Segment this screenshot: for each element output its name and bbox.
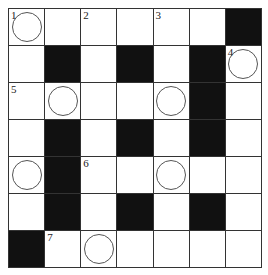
grid-cell[interactable] bbox=[9, 46, 44, 82]
circle-icon bbox=[12, 160, 42, 190]
black-cell bbox=[190, 83, 225, 119]
grid-cell[interactable] bbox=[117, 9, 152, 45]
grid-cell[interactable] bbox=[9, 120, 44, 156]
grid-cell[interactable]: 5 bbox=[9, 83, 44, 119]
grid-cell[interactable] bbox=[81, 194, 116, 230]
black-cell bbox=[9, 231, 44, 267]
grid-cell[interactable] bbox=[226, 194, 261, 230]
black-cell bbox=[45, 46, 80, 82]
black-cell bbox=[117, 120, 152, 156]
grid-cell[interactable] bbox=[9, 157, 44, 193]
grid-cell[interactable] bbox=[154, 46, 189, 82]
grid-cell[interactable] bbox=[45, 9, 80, 45]
black-cell bbox=[190, 120, 225, 156]
grid-cell[interactable] bbox=[154, 120, 189, 156]
black-cell bbox=[190, 194, 225, 230]
black-cell bbox=[117, 46, 152, 82]
circle-icon bbox=[84, 234, 114, 264]
grid-cell[interactable] bbox=[117, 83, 152, 119]
black-cell bbox=[117, 194, 152, 230]
grid-cell[interactable] bbox=[117, 231, 152, 267]
grid-cell[interactable]: 4 bbox=[226, 46, 261, 82]
clue-number: 6 bbox=[83, 157, 89, 169]
black-cell bbox=[45, 120, 80, 156]
grid-cell[interactable] bbox=[45, 83, 80, 119]
circle-icon bbox=[156, 160, 186, 190]
circle-icon bbox=[156, 86, 186, 116]
grid-cell[interactable] bbox=[154, 194, 189, 230]
grid-cell[interactable] bbox=[226, 120, 261, 156]
crossword-grid: 1234567 bbox=[8, 8, 262, 268]
grid-cell[interactable] bbox=[81, 46, 116, 82]
grid-cell[interactable] bbox=[226, 231, 261, 267]
black-cell bbox=[190, 46, 225, 82]
black-cell bbox=[45, 194, 80, 230]
grid-cell[interactable] bbox=[226, 83, 261, 119]
black-cell bbox=[226, 9, 261, 45]
grid-cell[interactable]: 6 bbox=[81, 157, 116, 193]
grid-cell[interactable] bbox=[190, 157, 225, 193]
clue-number: 2 bbox=[83, 9, 89, 21]
grid-cell[interactable]: 3 bbox=[154, 9, 189, 45]
grid-cell[interactable]: 7 bbox=[45, 231, 80, 267]
grid-cell[interactable] bbox=[190, 9, 225, 45]
clue-number: 3 bbox=[156, 9, 162, 21]
grid-cell[interactable] bbox=[190, 231, 225, 267]
clue-number: 5 bbox=[11, 83, 17, 95]
grid-cell[interactable] bbox=[154, 157, 189, 193]
grid-cell[interactable] bbox=[117, 157, 152, 193]
grid-cell[interactable]: 1 bbox=[9, 9, 44, 45]
grid-cell[interactable] bbox=[81, 83, 116, 119]
grid-cell[interactable]: 2 bbox=[81, 9, 116, 45]
clue-number: 7 bbox=[47, 231, 53, 243]
grid-cell[interactable] bbox=[226, 157, 261, 193]
circle-icon bbox=[48, 86, 78, 116]
grid-cell[interactable] bbox=[81, 120, 116, 156]
circle-icon bbox=[12, 12, 42, 42]
grid-cell[interactable] bbox=[81, 231, 116, 267]
grid-cell[interactable] bbox=[154, 83, 189, 119]
circle-icon bbox=[228, 49, 258, 79]
grid-cell[interactable] bbox=[154, 231, 189, 267]
black-cell bbox=[45, 157, 80, 193]
grid-cell[interactable] bbox=[9, 194, 44, 230]
